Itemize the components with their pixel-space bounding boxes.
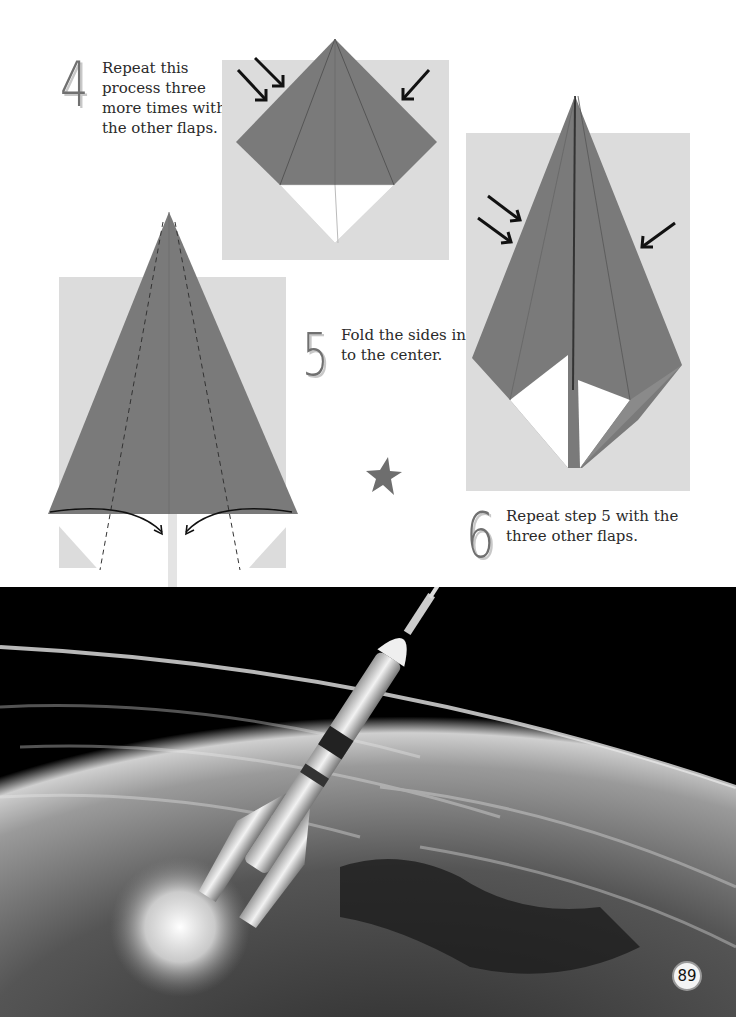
step-5-instructions: Fold the sides in to the center. [341, 325, 466, 365]
step-6-instructions: Repeat step 5 with the three other flaps… [506, 506, 678, 546]
step-6-line: three other flaps. [506, 526, 678, 546]
step-6-numeral: 6 [466, 505, 494, 567]
page-number-badge: 89 [672, 961, 702, 991]
step-6-line: Repeat step 5 with the [506, 506, 678, 526]
earth-and-rocket-illustration [0, 587, 736, 1017]
step-4-line: Repeat this [102, 58, 226, 78]
step-6-fold-diagram [460, 90, 700, 500]
star-icon [364, 455, 404, 500]
page-number: 89 [677, 967, 696, 985]
step-5-line: Fold the sides in [341, 325, 466, 345]
step-4-instructions: Repeat this process three more times wit… [102, 58, 226, 138]
step-5-numeral: 5 [302, 326, 329, 384]
step-4-numeral: 4 [60, 54, 88, 116]
step-5-line: to the center. [341, 345, 466, 365]
step-4-line: process three [102, 78, 226, 98]
rocket-earth-photo [0, 587, 736, 1017]
step-4-line: the other flaps. [102, 118, 226, 138]
step-4-line: more times with [102, 98, 226, 118]
